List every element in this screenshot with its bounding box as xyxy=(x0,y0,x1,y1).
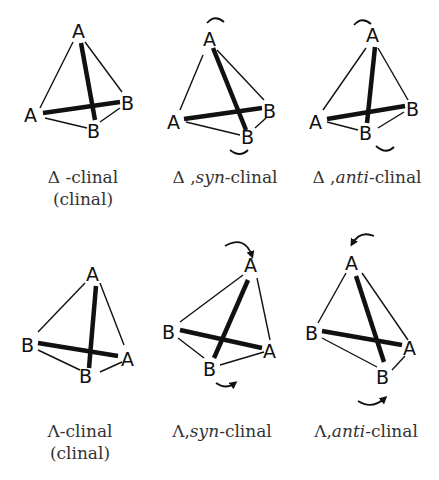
caption-subtitle: (clinal) xyxy=(48,442,113,464)
caption-symbol: Δ xyxy=(312,167,324,187)
caption-italic: anti xyxy=(332,421,365,441)
caption-subtitle: (clinal) xyxy=(48,188,118,210)
vertex-label-left: B xyxy=(305,322,318,344)
caption-lambda-clinal: Λ-clinal (clinal) xyxy=(48,420,113,464)
thin-edges xyxy=(38,283,124,372)
vertex-label-left: B xyxy=(162,321,175,343)
vertex-label-front: B xyxy=(359,122,372,144)
caption-symbol: Λ xyxy=(172,421,184,441)
thin-edges xyxy=(180,50,266,135)
vertex-label-front: B xyxy=(79,365,92,387)
vertex-label-right: B xyxy=(121,92,134,114)
caption-separator: , xyxy=(185,167,196,187)
panel-delta-clinal: A A B B xyxy=(24,20,134,142)
rotation-arc-bottom-icon xyxy=(230,150,248,154)
vertex-label-top: A xyxy=(244,254,257,276)
caption-italic: anti xyxy=(336,167,369,187)
caption-delta-anti-clinal: Δ ,anti-clinal xyxy=(312,166,421,188)
bold-edges xyxy=(43,43,120,120)
bold-edges xyxy=(327,47,405,123)
rotation-arc-bottom-icon xyxy=(376,146,394,151)
caption-delta-clinal: Δ -clinal (clinal) xyxy=(48,166,118,210)
caption-text: clinal xyxy=(71,167,118,187)
caption-separator: - xyxy=(60,167,71,187)
caption-symbol: Λ xyxy=(48,421,60,441)
panel-delta-anti-clinal: A A B B xyxy=(309,20,419,151)
caption-separator: , xyxy=(325,167,336,187)
bold-edges xyxy=(322,276,402,362)
caption-lambda-anti-clinal: Λ,anti-clinal xyxy=(314,420,418,442)
panel-lambda-clinal: A B A B xyxy=(21,263,134,387)
bold-edges xyxy=(184,48,262,130)
rotation-arc-top-icon xyxy=(207,18,224,23)
caption-text: -clinal xyxy=(365,421,418,441)
vertex-label-top: A xyxy=(86,263,99,285)
panel-lambda-anti-clinal: A B A B xyxy=(305,234,416,405)
caption-text: -clinal xyxy=(219,421,272,441)
diagram-canvas: A A B B A A B B xyxy=(0,0,439,480)
thin-edges xyxy=(318,273,408,370)
vertex-label-right: B xyxy=(406,98,419,120)
vertex-label-top: A xyxy=(366,24,379,46)
vertex-label-left: B xyxy=(21,334,34,356)
caption-symbol: Δ xyxy=(48,167,60,187)
caption-delta-syn-clinal: Δ ,syn-clinal xyxy=(172,166,277,188)
rotation-arrow-bottom-icon xyxy=(216,383,235,387)
vertex-label-right: A xyxy=(403,337,416,359)
vertex-label-top: A xyxy=(345,252,358,274)
vertex-label-right: B xyxy=(263,100,276,122)
caption-text: -clinal xyxy=(225,167,278,187)
caption-symbol: Λ xyxy=(314,421,326,441)
caption-italic: syn xyxy=(190,421,219,441)
vertex-label-right: A xyxy=(263,340,276,362)
caption-italic: syn xyxy=(196,167,225,187)
panel-delta-syn-clinal: A A B B xyxy=(167,18,276,154)
vertex-label-front: B xyxy=(376,366,389,388)
vertex-label-top: A xyxy=(72,20,85,42)
rotation-arrow-bottom-icon xyxy=(358,398,385,405)
caption-text: clinal xyxy=(66,421,113,441)
caption-symbol: Δ xyxy=(172,167,184,187)
vertex-label-front: B xyxy=(241,126,254,148)
vertex-label-left: A xyxy=(167,111,180,133)
vertex-label-front: B xyxy=(87,120,100,142)
vertex-label-front: B xyxy=(203,358,216,380)
caption-lambda-syn-clinal: Λ,syn-clinal xyxy=(172,420,272,442)
vertex-label-top: A xyxy=(203,28,216,50)
panel-lambda-syn-clinal: A B A B xyxy=(162,242,276,386)
tetrahedron-chirality-figure: A A B B A A B B xyxy=(0,0,439,480)
thin-edges xyxy=(178,275,270,365)
vertex-label-right: A xyxy=(121,348,134,370)
counterclockwise-arrow-top-icon xyxy=(352,234,374,244)
vertex-label-left: A xyxy=(309,111,322,133)
vertex-label-left: A xyxy=(24,104,37,126)
caption-text: -clinal xyxy=(369,167,422,187)
